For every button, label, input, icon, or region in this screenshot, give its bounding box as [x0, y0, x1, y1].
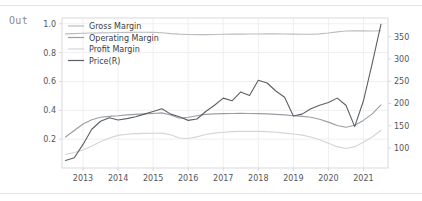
x-axis-tick-label: 2013: [73, 174, 93, 183]
legend-label: Gross Margin: [89, 22, 141, 31]
left-axis-tick-label: 0.6: [43, 77, 56, 86]
x-axis: 201320142015201620172018201920202021: [73, 168, 374, 183]
right-axis-tick-label: 200: [394, 99, 409, 108]
x-axis-tick-label: 2016: [178, 174, 198, 183]
left-axis-tick-label: 0.4: [43, 106, 56, 115]
cell-separator-bottom: [0, 193, 422, 194]
x-axis-tick-label: 2019: [283, 174, 303, 183]
legend-label: Operating Margin: [89, 34, 159, 43]
right-axis-tick-label: 100: [394, 144, 409, 153]
right-axis-tick-label: 250: [394, 77, 409, 86]
left-axis-tick-label: 1.0: [43, 20, 56, 29]
left-axis-tick-label: 0.2: [43, 135, 56, 144]
cell-separator-top: [0, 5, 422, 6]
x-axis-tick-label: 2017: [213, 174, 233, 183]
line-chart: 0.20.40.60.81.01001502002503003502013201…: [26, 12, 418, 192]
chart-figure: 0.20.40.60.81.01001502002503003502013201…: [26, 12, 418, 192]
right-axis: 100150200250300350: [388, 33, 409, 153]
legend-label: Price(R): [89, 57, 120, 66]
x-axis-tick-label: 2015: [143, 174, 163, 183]
legend-label: Profit Margin: [89, 45, 140, 54]
notebook-output-cell: Out 0.20.40.60.81.0100150200250300350201…: [0, 0, 422, 201]
right-axis-tick-label: 300: [394, 55, 409, 64]
right-axis-tick-label: 150: [394, 122, 409, 131]
x-axis-tick-label: 2020: [318, 174, 338, 183]
x-axis-tick-label: 2018: [248, 174, 268, 183]
left-axis-tick-label: 0.8: [43, 49, 56, 58]
left-axis: 0.20.40.60.81.0: [43, 20, 62, 144]
right-axis-tick-label: 350: [394, 33, 409, 42]
x-axis-tick-label: 2014: [108, 174, 128, 183]
x-axis-tick-label: 2021: [353, 174, 373, 183]
